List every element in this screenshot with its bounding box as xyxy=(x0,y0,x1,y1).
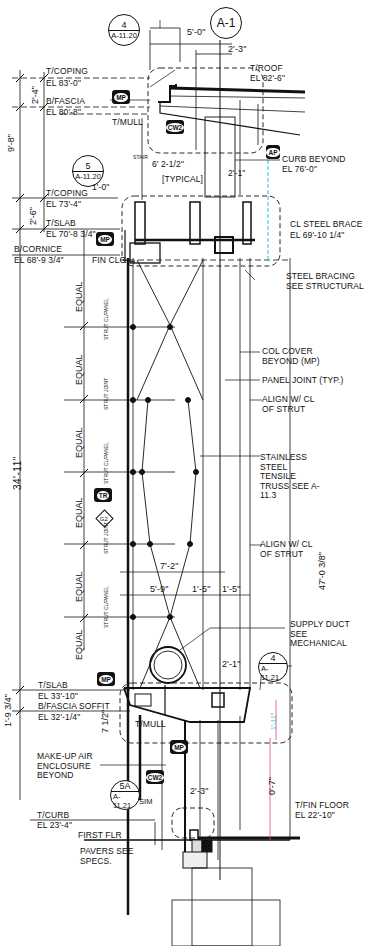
tag-cw2-top: CW2 xyxy=(166,120,184,134)
dim-slab-fascia: 1'-9 3/4" xyxy=(3,694,13,727)
callout-sheet: A-11.20 xyxy=(73,171,103,181)
tag-cw2-lower: CW2 xyxy=(146,770,164,784)
dim-top-width: 5'-0" xyxy=(187,28,205,38)
dim-top-offset: 2'-3" xyxy=(228,45,246,55)
detail-callout-5a[interactable]: 5A A-11.21 xyxy=(110,780,140,810)
strut-tag-4: STRUT JOINT xyxy=(104,522,109,554)
dim-right-total: 47'-0 3/8" xyxy=(317,552,327,590)
note-make-up-air: MAKE-UP AIR ENCLOSURE BEYOND xyxy=(37,752,107,781)
dim-coping-slab: 2'-6" xyxy=(28,207,38,225)
typical-note: [TYPICAL] xyxy=(162,175,203,185)
tag-mp-cornice: MP xyxy=(96,232,114,246)
dim-stair-offset: 6' 2-1/2" xyxy=(152,160,184,170)
elev-label-t-coping-top: T/COPING xyxy=(46,67,88,77)
dim-truss-width-a: 7'-2" xyxy=(160,562,178,572)
elev-label-b-fascia-top: B/FASCIA xyxy=(46,97,85,107)
equal-label-3: EQUAL xyxy=(74,427,84,458)
equal-label-5: EQUAL xyxy=(74,571,84,602)
elev-value-t-coping-top: EL 83'-0" xyxy=(46,79,81,89)
elev-value-b-cornice: EL 68'-9 3/4" xyxy=(14,256,64,266)
tag-mp-lower: MP xyxy=(97,672,115,686)
elev-value-t-coping-mid: EL 73'-4" xyxy=(46,200,81,210)
dim-left-upper-total: 9'-8" xyxy=(6,134,16,152)
elev-value-cl-steel-brace: EL 69'-10 1/4" xyxy=(290,231,344,241)
grid-label: A-1 xyxy=(217,16,236,30)
elev-value-t-slab-mid: EL 70'-8 3/4" xyxy=(46,230,96,240)
elev-label-cl-steel-brace: CL STEEL BRACE xyxy=(290,220,363,230)
dim-lower-height: 0'-7" xyxy=(267,777,277,795)
note-align-strut-2: ALIGN W/ CL OF STRUT xyxy=(260,540,320,559)
dim-coping-fascia: 2'-4" xyxy=(30,86,40,104)
elev-label-fin-clg: FIN CLG xyxy=(92,256,126,266)
note-align-strut-1: ALIGN W/ CL OF STRUT xyxy=(262,395,322,414)
elev-label-t-slab-lower: T/SLAB xyxy=(38,681,68,691)
strut-tag-5: STRUT CL/PANEL xyxy=(104,586,109,628)
callout-number: 5A xyxy=(119,781,130,791)
note-panel-joint: PANEL JOINT (TYP.) xyxy=(262,376,343,386)
callout-sheet: A-11.20 xyxy=(109,30,139,40)
dim-coping-offset: 1'-0" xyxy=(92,183,109,193)
dim-truss-width-b: 5'-9" xyxy=(150,585,168,595)
equal-label-6: EQUAL xyxy=(74,629,84,660)
note-pavers: PAVERS SEE SPECS. xyxy=(80,847,140,866)
note-tensile-truss: STAINLESS STEEL TENSILE TRUSS SEE A-11.3 xyxy=(260,453,322,501)
elev-label-t-coping-mid: T/COPING xyxy=(46,189,88,199)
tag-mp-top: MP xyxy=(112,90,130,104)
tag-mp-mull: MP xyxy=(170,740,188,754)
note-supply-duct: SUPPLY DUCT SEE MECHANICAL xyxy=(290,620,360,649)
equal-label-4: EQUAL xyxy=(74,497,84,528)
note-el-76: EL 76'-0" xyxy=(282,165,317,175)
detail-callout-4-right[interactable]: 4 A-11.21 xyxy=(258,652,288,682)
callout-number: 4 xyxy=(270,653,275,663)
elev-value-t-curb: EL 23'-4" xyxy=(37,821,72,831)
supply-duct-circle xyxy=(150,647,186,683)
tag-ap: AP xyxy=(266,145,280,159)
callout-number: 5 xyxy=(85,161,90,171)
dim-right-upper: 2'-1" xyxy=(228,169,245,179)
strut-tag-1: STRUT CL/PANEL xyxy=(104,298,109,340)
dim-base-offset: 2'-3" xyxy=(190,787,208,797)
elev-value-b-fascia-top: EL 80'-8" xyxy=(46,108,81,118)
elev-label-first-flr: FIRST FLR xyxy=(78,831,122,841)
dim-panel-a: 1'-5" xyxy=(192,585,210,595)
elev-value-t-fin-floor: EL 22'-10" xyxy=(295,811,335,821)
dim-fascia-mull: 7 1/2" xyxy=(100,710,110,733)
strut-tag-3: STRUT CL/PANEL xyxy=(104,442,109,484)
dim-panel-b: 1'-5" xyxy=(222,585,240,595)
elev-label-b-cornice: B/CORNICE xyxy=(14,245,62,255)
dim-right-lower: 1'-11" xyxy=(270,713,277,730)
elev-label-t-mull-lower: T/MULL xyxy=(135,720,166,730)
detail-callout-4-top[interactable]: 4 A-11.20 xyxy=(108,14,140,46)
elev-value-t-roof: EL 82'-6" xyxy=(250,74,285,84)
grid-bubble-a1[interactable]: A-1 xyxy=(210,7,242,39)
elev-label-b-fascia-lower: B/FASCIA xyxy=(38,702,77,712)
detail-cloud-4 xyxy=(148,68,263,153)
sim-note: SIM xyxy=(139,798,153,807)
equal-label-1: EQUAL xyxy=(74,281,84,312)
tag-tr: TR xyxy=(94,488,112,502)
elev-label-t-mull-top: T/MULL xyxy=(112,118,143,128)
equal-label-2: EQUAL xyxy=(74,354,84,385)
dim-lower-offset: 2'-1" xyxy=(222,660,240,670)
elev-label-t-slab-mid: T/SLAB xyxy=(46,219,76,229)
callout-number: 4 xyxy=(121,20,126,30)
stair-label: STAIR xyxy=(133,153,148,162)
callout-sheet: A-11.21 xyxy=(259,663,287,682)
elev-value-b-fascia-lower: EL 32'-1/4" xyxy=(38,713,80,723)
strut-tag-2: STRUT JOINT xyxy=(104,378,109,410)
note-steel-bracing: STEEL BRACING SEE STRUCTURAL xyxy=(286,272,366,291)
callout-sheet: A-11.21 xyxy=(111,791,139,810)
detail-cloud-lower xyxy=(120,683,292,743)
note-col-cover: COL COVER BEYOND (MP) xyxy=(262,347,332,366)
dim-main-height: 34'-11" xyxy=(12,456,23,490)
